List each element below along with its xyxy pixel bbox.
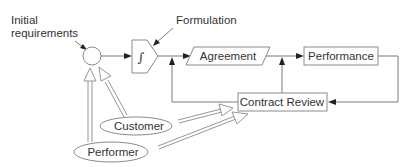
performer-label: Performer: [87, 146, 138, 158]
customer-to-junction-hollow-arrow: [99, 67, 127, 117]
contract-process-diagram: Initial requirements Formulation ∫ Agree…: [0, 0, 411, 167]
arrow-head-icon: [124, 53, 132, 59]
formulation-arrow-line: [157, 28, 173, 42]
arrow-head-icon: [169, 57, 175, 65]
initial-requirements-label-line2: requirements: [11, 27, 78, 39]
formulation-label: Formulation: [176, 14, 237, 26]
junction-circle: [83, 47, 101, 65]
performer-to-review-hollow-arrow: [158, 112, 248, 149]
contract-review-label: Contract Review: [240, 96, 325, 108]
customer-label: Customer: [114, 120, 164, 132]
review-to-formulation-feedback-edge: [172, 63, 238, 102]
arrow-head-icon: [328, 99, 336, 105]
performance-label: Performance: [308, 50, 374, 62]
performer-to-junction-hollow-arrow: [84, 68, 96, 142]
arrow-head-icon: [279, 57, 285, 65]
integral-symbol: ∫: [138, 50, 145, 65]
arrow-head-icon: [296, 53, 304, 59]
initial-requirements-label-line1: Initial: [11, 14, 38, 26]
agreement-label: Agreement: [200, 50, 257, 62]
